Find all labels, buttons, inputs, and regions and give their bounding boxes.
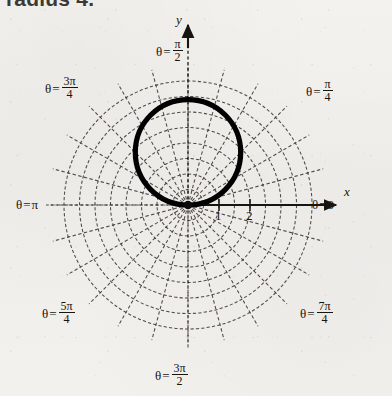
fraction-numerator: 3π <box>172 362 188 375</box>
fraction-3pi-over-2: 3π2 <box>172 362 188 387</box>
fraction-denominator: 2 <box>172 375 188 387</box>
fraction-denominator: 2 <box>173 51 183 63</box>
fraction-numerator: 3π <box>62 75 78 88</box>
angle-label-theta-pi-2: θ=π2 <box>156 38 183 63</box>
fraction-denominator: 4 <box>323 91 333 103</box>
equals-sign: = <box>163 44 170 59</box>
equals-sign: = <box>23 197 30 212</box>
figure-page: radius 4. <box>0 0 392 396</box>
spoke-105deg <box>152 70 188 205</box>
spoke-195deg <box>53 205 188 241</box>
angle-label-theta-7pi-4: θ=7π4 <box>300 300 333 325</box>
equals-sign: = <box>162 368 169 383</box>
fraction-denominator: 4 <box>62 88 78 100</box>
fraction-5pi-over-4: 5π4 <box>59 300 75 325</box>
spoke-255deg <box>152 205 188 340</box>
spoke-135deg <box>89 106 188 205</box>
spoke-285deg <box>188 205 224 340</box>
theta-symbol: θ <box>155 368 161 383</box>
spoke-150deg <box>67 135 188 205</box>
fraction-numerator: 5π <box>59 300 75 313</box>
equals-sign: = <box>52 81 59 96</box>
fraction-numerator: π <box>173 38 183 51</box>
theta-symbol: θ <box>42 306 48 321</box>
spoke-225deg <box>89 205 188 304</box>
fraction-pi-over-2: π2 <box>173 38 183 63</box>
x-axis-label: x <box>344 184 350 200</box>
angle-label-theta-3pi-4: θ=3π4 <box>45 75 78 100</box>
spoke-345deg <box>188 205 323 241</box>
angle-label-theta-3pi-2: θ=3π2 <box>155 362 188 387</box>
x-tick-label-1: 1 <box>215 208 222 224</box>
fraction-7pi-over-4: 7π4 <box>317 300 333 325</box>
fraction-numerator: π <box>323 78 333 91</box>
theta-symbol: θ <box>306 84 312 99</box>
x-tick-label-2: 2 <box>246 208 253 224</box>
angle-value: 0 <box>328 197 335 212</box>
equals-sign: = <box>49 306 56 321</box>
pole-point <box>184 201 192 209</box>
angle-label-theta-pi: θ=π <box>16 198 38 211</box>
theta-symbol: θ <box>156 44 162 59</box>
spoke-75deg <box>188 70 224 205</box>
equals-sign: = <box>313 84 320 99</box>
theta-symbol: θ <box>300 306 306 321</box>
theta-symbol: θ <box>16 197 22 212</box>
angle-value: π <box>32 197 39 212</box>
angle-label-theta-5pi-4: θ=5π4 <box>42 300 75 325</box>
fraction-denominator: 4 <box>59 313 75 325</box>
theta-symbol: θ <box>45 81 51 96</box>
angle-label-theta-pi-4: θ=π4 <box>306 78 333 103</box>
fraction-3pi-over-4: 3π4 <box>62 75 78 100</box>
equals-sign: = <box>319 197 326 212</box>
fraction-denominator: 4 <box>317 313 333 325</box>
angle-label-theta-0: θ=0 <box>312 198 334 211</box>
spoke-45deg <box>188 106 287 205</box>
theta-symbol: θ <box>312 197 318 212</box>
equals-sign: = <box>307 306 314 321</box>
spoke-315deg <box>188 205 287 304</box>
fraction-pi-over-4: π4 <box>323 78 333 103</box>
y-axis-label: y <box>176 12 182 28</box>
fraction-numerator: 7π <box>317 300 333 313</box>
